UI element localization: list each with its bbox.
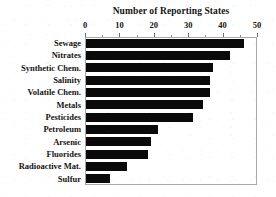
x-tick-label-0: 0 — [83, 20, 87, 30]
category-label-pesticides: Pesticides — [0, 111, 81, 123]
bar-row: Salinity — [0, 74, 276, 86]
bar-track — [86, 37, 257, 49]
bar-row: Fluorides — [0, 148, 276, 160]
bar-row: Synthetic Chem. — [0, 62, 276, 74]
bar-track — [86, 49, 257, 61]
bar-arsenic — [86, 137, 151, 146]
bar-row: Sulfur — [0, 173, 276, 185]
category-label-petroleum: Petroleum — [0, 123, 81, 135]
category-label-fluorides: Fluorides — [0, 148, 81, 160]
bar-petroleum — [86, 125, 158, 134]
bar-sewage — [86, 39, 244, 48]
bar-chart: Number of Reporting States 01020304050 S… — [0, 0, 276, 197]
category-label-sulfur: Sulfur — [0, 173, 81, 185]
bar-track — [86, 148, 257, 160]
bar-row: Nitrates — [0, 49, 276, 61]
bar-track — [86, 111, 257, 123]
bar-synthetic-chem — [86, 63, 213, 72]
bar-track — [86, 160, 257, 172]
bar-metals — [86, 100, 203, 109]
bar-pesticides — [86, 113, 193, 122]
category-label-synthetic-chem: Synthetic Chem. — [0, 62, 81, 74]
bar-sulfur — [86, 174, 110, 183]
bar-nitrates — [86, 51, 230, 60]
bar-row: Arsenic — [0, 136, 276, 148]
x-tick-label-20: 20 — [150, 20, 159, 30]
category-label-nitrates: Nitrates — [0, 49, 81, 61]
x-tick-label-30: 30 — [184, 20, 193, 30]
category-label-sewage: Sewage — [0, 37, 81, 49]
category-label-arsenic: Arsenic — [0, 136, 81, 148]
bar-row: Sewage — [0, 37, 276, 49]
bar-track — [86, 99, 257, 111]
x-tick-label-10: 10 — [115, 20, 124, 30]
bar-track — [86, 173, 257, 185]
bar-volatile-chem — [86, 88, 210, 97]
bar-track — [86, 86, 257, 98]
bar-rows: SewageNitratesSynthetic Chem.SalinityVol… — [0, 37, 276, 185]
x-tick-label-40: 40 — [218, 20, 227, 30]
bar-row: Radioactive Mat. — [0, 160, 276, 172]
x-tick-label-50: 50 — [253, 20, 262, 30]
chart-title: Number of Reporting States — [85, 6, 257, 16]
bar-track — [86, 136, 257, 148]
category-label-metals: Metals — [0, 99, 81, 111]
bar-salinity — [86, 76, 210, 85]
bar-track — [86, 74, 257, 86]
bar-fluorides — [86, 150, 148, 159]
bar-row: Pesticides — [0, 111, 276, 123]
bar-row: Petroleum — [0, 123, 276, 135]
bar-track — [86, 123, 257, 135]
bar-row: Metals — [0, 99, 276, 111]
bar-radioactive-mat — [86, 162, 127, 171]
category-label-volatile-chem: Volatile Chem. — [0, 86, 81, 98]
bar-row: Volatile Chem. — [0, 86, 276, 98]
category-label-salinity: Salinity — [0, 74, 81, 86]
category-label-radioactive-mat: Radioactive Mat. — [0, 160, 81, 172]
bar-track — [86, 62, 257, 74]
